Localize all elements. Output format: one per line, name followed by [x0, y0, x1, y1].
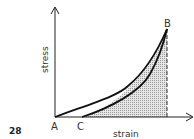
x-axis-label: strain	[113, 129, 139, 139]
y-axis-label: stress	[40, 46, 50, 73]
figure-number: 28	[9, 126, 22, 136]
point-label-a: A	[51, 121, 58, 132]
stress-strain-diagram: B A C strain stress 28	[0, 0, 194, 139]
point-label-b: B	[164, 18, 171, 29]
point-label-c: C	[77, 121, 84, 132]
shaded-energy-region	[82, 29, 167, 117]
